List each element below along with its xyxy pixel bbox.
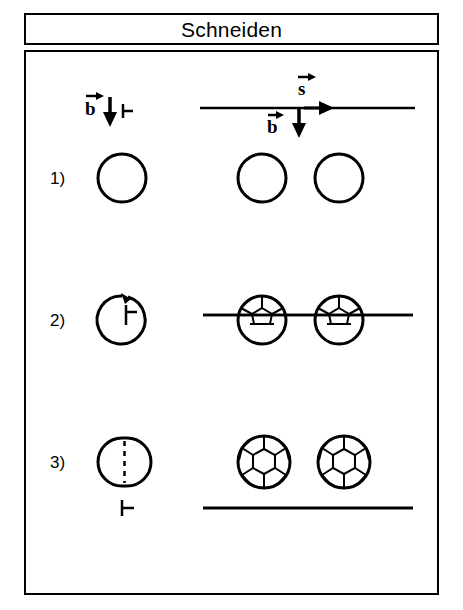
page-title: Schneiden bbox=[26, 15, 437, 43]
vector-label-s: s bbox=[298, 79, 305, 98]
vector-label-b-right: b bbox=[267, 117, 278, 136]
row-label-1: 1) bbox=[50, 170, 65, 187]
diagram-body-box bbox=[24, 50, 439, 595]
row-label-2: 2) bbox=[50, 312, 65, 329]
vector-label-b-left: b bbox=[85, 99, 96, 118]
figure-schneiden: Schneiden 1) 2) 3) b s b bbox=[0, 0, 463, 610]
row-label-3: 3) bbox=[50, 454, 65, 471]
title-box: Schneiden bbox=[24, 13, 439, 45]
